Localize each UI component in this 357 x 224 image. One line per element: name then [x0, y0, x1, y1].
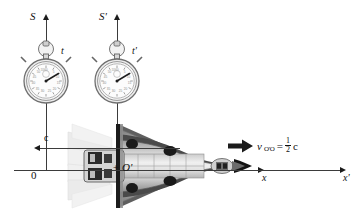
- stopwatch-s-graphic: 60 5 10 15 20 25 30 35 40 45 50 55: [14, 38, 78, 104]
- velocity-denominator: 2: [285, 145, 291, 154]
- velocity-subscript: O'O: [264, 145, 275, 153]
- light-ray-line: [40, 148, 180, 149]
- stopwatch-s-prime-graphic: 60 5 10 15 20 25 30 35 40 45 50 55: [85, 38, 149, 104]
- svg-text:45: 45: [33, 75, 37, 79]
- svg-text:30: 30: [112, 89, 116, 93]
- space-shuttle: [66, 118, 262, 218]
- moving-origin-label: O': [122, 162, 132, 173]
- svg-text:20: 20: [124, 87, 128, 91]
- velocity-arrow-icon: [228, 139, 254, 153]
- moving-origin-cross-icon: +: [113, 162, 119, 173]
- svg-text:30: 30: [41, 89, 45, 93]
- axis-label-x: x: [262, 173, 266, 183]
- velocity-equals: =: [277, 140, 283, 152]
- axis-label-s-prime: S': [99, 11, 107, 22]
- stopwatch-s-prime: 60 5 10 15 20 25 30 35 40 45 50 55: [85, 38, 149, 104]
- svg-text:40: 40: [32, 81, 36, 85]
- horizontal-axis-x-prime: [120, 170, 342, 171]
- velocity-symbol: v: [257, 140, 262, 152]
- svg-text:10: 10: [127, 75, 131, 79]
- velocity-formula: vO'O = 1 2 c: [257, 137, 298, 155]
- shuttle-booster-attach-bottom: [126, 183, 138, 193]
- svg-text:15: 15: [128, 81, 132, 85]
- velocity-fraction: 1 2: [285, 137, 291, 155]
- svg-text:25: 25: [48, 89, 52, 93]
- svg-text:45: 45: [104, 75, 108, 79]
- shuttle-cockpit: [211, 159, 233, 174]
- space-shuttle-graphic: [66, 118, 262, 214]
- light-speed-label-c: c: [44, 133, 48, 143]
- stopwatch-s: 60 5 10 15 20 25 30 35 40 45 50 55: [14, 38, 78, 104]
- svg-text:5: 5: [53, 70, 55, 74]
- velocity-annotation: vO'O = 1 2 c: [228, 137, 298, 155]
- vertical-axis-s-arrowhead: [43, 14, 49, 20]
- velocity-numerator: 1: [285, 137, 291, 145]
- origin-label-0: 0: [31, 170, 37, 181]
- axis-label-s: S: [30, 11, 36, 22]
- vertical-axis-s-prime-arrowhead: [114, 14, 120, 20]
- svg-text:25: 25: [119, 89, 123, 93]
- svg-text:10: 10: [56, 75, 60, 79]
- svg-text:40: 40: [103, 81, 107, 85]
- clock-label-t: t: [61, 46, 64, 56]
- svg-text:15: 15: [57, 81, 61, 85]
- velocity-unit: c: [293, 140, 298, 152]
- light-ray-arrowhead: [34, 145, 40, 151]
- svg-text:20: 20: [53, 87, 57, 91]
- svg-text:35: 35: [36, 87, 40, 91]
- svg-text:35: 35: [107, 87, 111, 91]
- clock-label-t-prime: t': [132, 46, 137, 56]
- svg-text:5: 5: [124, 70, 126, 74]
- svg-text:60: 60: [44, 68, 48, 72]
- svg-text:60: 60: [115, 68, 119, 72]
- axis-label-x-prime: x': [343, 173, 350, 183]
- relativity-figure: S S': [0, 0, 357, 224]
